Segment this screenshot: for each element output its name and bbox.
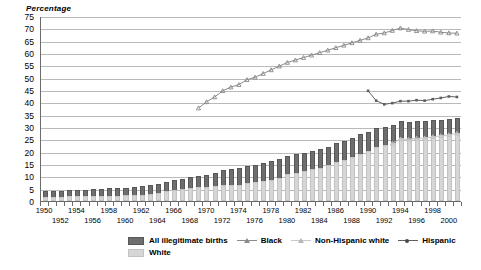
legend-line-dot-dark-icon <box>398 236 418 245</box>
x-axis-tick-label: 1984 <box>311 216 328 225</box>
legend-item-hispanic[interactable]: Hispanic <box>398 236 455 245</box>
marker-hispanic <box>407 100 410 103</box>
legend-item-non-hispanic-white[interactable]: Non-Hispanic white <box>291 236 389 245</box>
x-axis-tick-label: 1978 <box>262 206 279 215</box>
x-axis-tick-label: 1988 <box>343 216 360 225</box>
line-hispanic <box>368 91 457 105</box>
x-axis-tick-label: 1954 <box>68 206 85 215</box>
x-axis-tick-label: 1970 <box>198 206 215 215</box>
x-axis-tick-label: 1976 <box>246 216 263 225</box>
x-axis-tick-labels: 1950195219541956195819601962196419661968… <box>0 206 481 230</box>
legend-item-white[interactable]: White <box>128 248 171 257</box>
marker-hispanic <box>391 102 394 105</box>
marker-hispanic <box>423 99 426 102</box>
marker-hispanic <box>367 90 370 93</box>
line-series-layer <box>41 17 461 202</box>
chart-legend: All illegitimate births Black Non-Hispan… <box>128 236 473 264</box>
x-axis-tick-label: 1980 <box>279 216 296 225</box>
x-axis-tick-label: 1998 <box>424 206 441 215</box>
legend-label-white: White <box>149 248 171 257</box>
x-axis-tick-label: 1986 <box>327 206 344 215</box>
marker-hispanic <box>439 97 442 100</box>
y-axis-tick-label: 0 <box>29 198 34 206</box>
y-axis-tick-label: 15 <box>25 161 34 169</box>
y-axis-tick-label: 60 <box>25 50 34 58</box>
marker-hispanic <box>383 103 386 106</box>
y-axis-tick-label: 55 <box>25 62 34 70</box>
marker-hispanic <box>375 99 378 102</box>
legend-swatch-dark-icon <box>128 237 144 245</box>
legend-line-triangle-dark-icon <box>237 236 257 245</box>
y-axis-tick-label: 20 <box>25 149 34 157</box>
line-black <box>198 28 456 108</box>
x-axis-tick-label: 1950 <box>36 206 53 215</box>
y-axis-tick-label: 65 <box>25 38 34 46</box>
y-axis-tick-label: 70 <box>25 25 34 33</box>
x-axis-tick-label: 1974 <box>230 206 247 215</box>
marker-hispanic <box>456 96 459 99</box>
x-axis-tick-label: 1958 <box>100 206 117 215</box>
chart-root: Percentage 05101520253035404550556065707… <box>0 0 481 270</box>
x-axis-tick-label: 1968 <box>181 216 198 225</box>
x-axis-tick-label: 1966 <box>165 206 182 215</box>
y-axis-tick-label: 40 <box>25 99 34 107</box>
legend-swatch-light-icon <box>128 249 144 257</box>
marker-hispanic <box>431 98 434 101</box>
x-axis-tick-label: 2000 <box>441 216 458 225</box>
legend-row-primary: All illegitimate births Black Non-Hispan… <box>128 236 465 245</box>
legend-label-black: Black <box>261 236 282 245</box>
marker-non-hispanic-white <box>455 131 459 135</box>
x-axis-tick-label: 1972 <box>214 216 231 225</box>
x-axis-tick-label: 1960 <box>117 216 134 225</box>
x-axis-tick-label: 1996 <box>408 216 425 225</box>
y-axis-tick-label: 35 <box>25 112 34 120</box>
legend-line-triangle-light-icon <box>291 236 311 245</box>
y-axis-tick-label: 5 <box>29 186 34 194</box>
x-axis-tick-label: 1962 <box>133 206 150 215</box>
y-axis-tick-label: 45 <box>25 87 34 95</box>
x-axis-tick-label: 1990 <box>360 206 377 215</box>
x-axis-tick-label: 1952 <box>52 216 69 225</box>
plot-area <box>40 17 461 202</box>
legend-label-hispanic: Hispanic <box>422 236 455 245</box>
x-axis-tick-label: 1964 <box>149 216 166 225</box>
legend-item-all-illegitimate-births[interactable]: All illegitimate births <box>128 236 228 245</box>
marker-hispanic <box>415 99 418 102</box>
y-axis-tick-label: 75 <box>25 13 34 21</box>
x-axis-tick-label: 1982 <box>295 206 312 215</box>
legend-label-all-illegitimate-births: All illegitimate births <box>149 236 228 245</box>
x-axis-tick-label: 1992 <box>376 216 393 225</box>
marker-hispanic <box>448 95 451 98</box>
y-axis-tick-label: 25 <box>25 136 34 144</box>
y-axis-tick-labels: 051015202530354045505560657075 <box>0 0 38 202</box>
y-axis-tick-label: 30 <box>25 124 34 132</box>
x-axis-tick-label: 1994 <box>392 206 409 215</box>
marker-hispanic <box>399 100 402 103</box>
y-axis-tick-label: 10 <box>25 173 34 181</box>
legend-row-secondary: White <box>128 248 180 257</box>
x-axis-tick-label: 1956 <box>84 216 101 225</box>
y-axis-tick-label: 50 <box>25 75 34 83</box>
legend-label-non-hispanic-white: Non-Hispanic white <box>315 236 389 245</box>
legend-item-black[interactable]: Black <box>237 236 282 245</box>
